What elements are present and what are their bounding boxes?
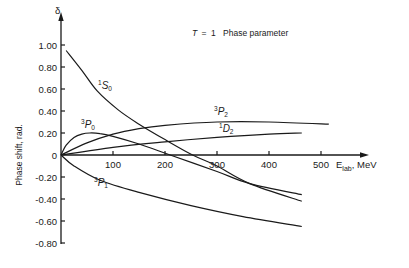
phase-shift-chart: 1.000.800.600.400.200-0.20-0.40-0.60-0.8… bbox=[0, 0, 409, 268]
curve-label-3p1: 3P1 bbox=[94, 176, 108, 189]
chart-title: T = 1 Phase parameter bbox=[192, 28, 288, 38]
curve-3p2 bbox=[61, 122, 329, 155]
y-tick-label: 0.20 bbox=[39, 128, 58, 139]
y-axis-symbol: δ bbox=[55, 5, 60, 16]
x-axis-arrow-icon bbox=[360, 152, 369, 157]
y-axis-title: Phase shift, rad. bbox=[14, 124, 24, 185]
y-tick-label: -0.20 bbox=[35, 172, 57, 183]
x-axis-ticks: 100200300400500 bbox=[105, 151, 329, 170]
y-tick-label: 0.60 bbox=[39, 84, 58, 95]
x-tick-label: 400 bbox=[261, 159, 277, 170]
chart-curves bbox=[61, 51, 329, 227]
x-axis-title: Elab, MeV bbox=[336, 159, 377, 172]
x-tick-label: 500 bbox=[313, 159, 329, 170]
y-tick-label: -0.40 bbox=[35, 194, 57, 205]
curve-label-1d2: 1D2 bbox=[219, 122, 234, 135]
y-tick-label: 0 bbox=[52, 150, 57, 161]
y-tick-label: 1.00 bbox=[39, 40, 58, 51]
y-tick-label: -0.80 bbox=[35, 238, 57, 249]
x-tick-label: 200 bbox=[157, 159, 173, 170]
y-tick-label: 0.40 bbox=[39, 106, 58, 117]
curve-label-3p0: 3P0 bbox=[81, 118, 95, 131]
curve-label-3p2: 3P2 bbox=[214, 105, 228, 118]
y-tick-label: 0.80 bbox=[39, 62, 58, 73]
y-tick-label: -0.60 bbox=[35, 216, 57, 227]
curve-1d2 bbox=[61, 133, 302, 155]
x-tick-label: 100 bbox=[105, 159, 121, 170]
curve-label-1s0: 1S0 bbox=[98, 79, 112, 92]
